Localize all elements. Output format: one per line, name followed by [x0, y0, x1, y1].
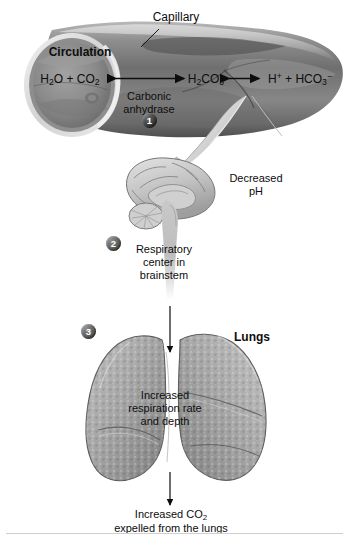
- capillary-label: Capillary: [153, 10, 200, 24]
- decreased-ph-line-1: Decreased: [229, 172, 282, 184]
- step-badge-2: 2: [106, 236, 121, 251]
- circulation-label: Circulation: [49, 45, 112, 59]
- respiratory-center-line-2: center in: [143, 256, 185, 268]
- step-badge-1: 1: [142, 113, 157, 128]
- respiration-effect-line-2: respiration rate: [128, 402, 201, 414]
- footer-divider: [6, 533, 343, 534]
- respiratory-center-label: Respiratory center in brainstem: [136, 243, 192, 282]
- equation-right: H+ + HCO3−: [268, 71, 332, 87]
- outcome-label: Increased CO2 expelled from the lungs: [114, 508, 228, 535]
- decreased-ph-line-2: pH: [249, 185, 263, 197]
- equation-left: H2O + CO2: [40, 72, 99, 87]
- step-badge-3: 3: [81, 324, 96, 339]
- outcome-line-1: Increased CO2: [135, 508, 207, 520]
- decreased-ph-label: Decreased pH: [229, 172, 282, 198]
- respiration-effect-line-1: Increased: [141, 389, 189, 401]
- respiration-effect-label: Increased respiration rate and depth: [128, 389, 201, 428]
- respiratory-center-line-3: brainstem: [140, 269, 188, 281]
- respiratory-center-line-1: Respiratory: [136, 243, 192, 255]
- equation-middle: H2CO3: [188, 72, 224, 87]
- respiration-effect-line-3: and depth: [141, 415, 190, 427]
- lungs-label: Lungs: [234, 330, 270, 344]
- diagram-canvas: Capillary Circulation H2O + CO2 H2CO3 H+…: [0, 0, 349, 545]
- enzyme-line-1: Carbonic: [127, 90, 171, 102]
